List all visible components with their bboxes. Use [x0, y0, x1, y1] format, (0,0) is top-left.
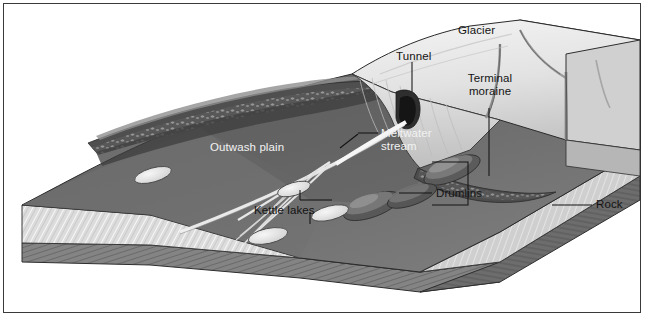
label-outwash-plain: Outwash plain — [210, 141, 284, 154]
label-tunnel: Tunnel — [396, 50, 431, 63]
block-diagram-artwork — [0, 0, 646, 318]
label-kettle-lakes: Kettle lakes — [254, 204, 315, 217]
label-meltwater-stream-line1: Meltwater — [381, 127, 432, 140]
label-rock: Rock — [596, 198, 623, 211]
label-terminal-moraine-line2: moraine — [458, 85, 522, 98]
label-drumlins: Drumlins — [436, 187, 482, 200]
label-terminal-moraine-line1: Terminal — [458, 72, 522, 85]
label-glacier: Glacier — [458, 24, 495, 37]
tunnel-portal — [396, 90, 420, 129]
figure-root: Glacier Tunnel Terminal moraine Outwash … — [0, 0, 646, 318]
label-meltwater-stream-line2: stream — [381, 140, 417, 153]
